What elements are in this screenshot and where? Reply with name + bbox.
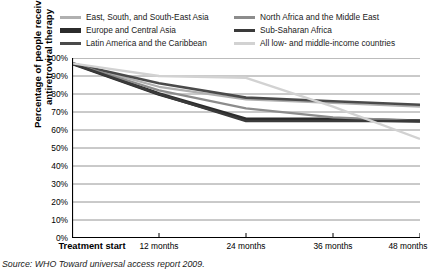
legend-item[interactable]: North Africa and the Middle East (234, 11, 428, 24)
legend-item[interactable]: Sub-Saharan Africa (234, 24, 428, 37)
y-axis-tick-label: 50% (36, 143, 68, 153)
legend-item[interactable]: Latin America and the Caribbean (60, 37, 230, 50)
chart-figure: East, South, and South-East AsiaEurope a… (0, 0, 431, 279)
x-axis-tick-label: 48 months (363, 241, 431, 252)
legend-label: Latin America and the Caribbean (86, 39, 207, 48)
legend-item[interactable]: Europe and Central Asia (60, 24, 230, 37)
chart-legend: East, South, and South-East AsiaEurope a… (60, 11, 428, 51)
x-axis-tick-label: 12 months (114, 241, 204, 252)
y-axis-tick-label: 30% (36, 179, 68, 189)
legend-label: Europe and Central Asia (86, 26, 176, 35)
legend-label: Sub-Saharan Africa (260, 26, 332, 35)
legend-column-right: North Africa and the Middle EastSub-Saha… (234, 11, 428, 50)
y-axis-tick-label: 40% (36, 161, 68, 171)
legend-swatch (234, 29, 255, 32)
legend-column-left: East, South, and South-East AsiaEurope a… (60, 11, 230, 50)
legend-swatch (234, 16, 255, 19)
legend-item[interactable]: All low- and middle-income countries (234, 37, 428, 50)
y-axis-tick-label: 80% (36, 89, 68, 99)
y-axis-tick-label: 10% (36, 215, 68, 225)
legend-swatch (60, 28, 81, 33)
legend-swatch (60, 42, 81, 46)
legend-label: North Africa and the Middle East (260, 13, 379, 22)
legend-swatch (234, 42, 255, 45)
legend-swatch (60, 16, 81, 19)
legend-label: East, South, and South-East Asia (86, 13, 209, 22)
legend-item[interactable]: East, South, and South-East Asia (60, 11, 230, 24)
y-axis-tick-label: 60% (36, 125, 68, 135)
gridlines (72, 58, 420, 238)
y-axis-tick-label: 100% (36, 53, 68, 63)
y-axis-tick-labels: 0%10%20%30%40%50%60%70%80%90%100% (36, 52, 68, 244)
y-axis-tick-label: 20% (36, 197, 68, 207)
y-axis-tick-label: 70% (36, 107, 68, 117)
y-axis-tick-label: 90% (36, 71, 68, 81)
data-series-group (72, 63, 420, 139)
series-line (72, 63, 420, 104)
x-axis-tick-labels: Treatment start12 months24 months36 mont… (0, 241, 431, 255)
legend-label: All low- and middle-income countries (260, 39, 395, 48)
chart-canvas (72, 58, 420, 238)
x-axis-tick-label: 24 months (201, 241, 291, 252)
source-note: Source: WHO Toward universal access repo… (2, 259, 205, 269)
plot-area (72, 58, 420, 238)
